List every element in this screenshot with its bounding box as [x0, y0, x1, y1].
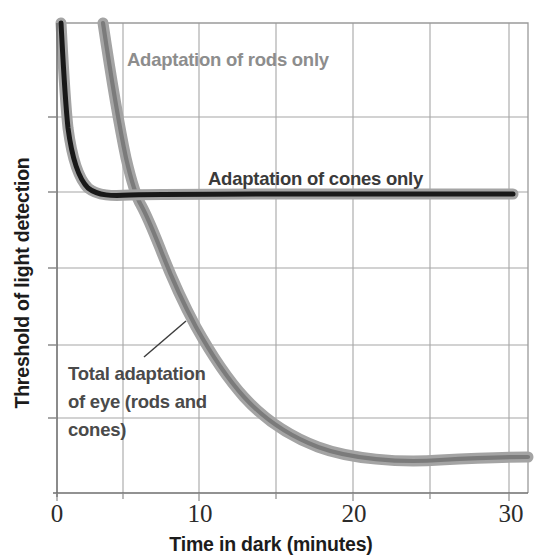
plot-background — [57, 23, 528, 493]
annotation-cones-only: Adaptation of cones only — [208, 168, 424, 189]
x-tick-label-30: 30 — [499, 500, 524, 527]
dark-adaptation-chart: 0 10 20 30 Time in dark (minutes) Thresh… — [0, 0, 541, 558]
x-tick-label-0: 0 — [51, 500, 64, 527]
x-tick-marks — [57, 493, 509, 501]
annotation-total-line2: of eye (rods and — [68, 391, 207, 412]
annotation-rods-only: Adaptation of rods only — [127, 49, 330, 70]
y-axis-title: Threshold of light detection — [11, 157, 33, 408]
x-tick-label-20: 20 — [342, 500, 367, 527]
y-tick-marks — [48, 117, 57, 418]
x-axis-title: Time in dark (minutes) — [169, 533, 372, 555]
x-tick-label-10: 10 — [188, 500, 213, 527]
annotation-total-line3: cones) — [68, 419, 126, 440]
annotation-total-line1: Total adaptation — [68, 363, 206, 384]
chart-svg: 0 10 20 30 Time in dark (minutes) Thresh… — [0, 0, 541, 558]
